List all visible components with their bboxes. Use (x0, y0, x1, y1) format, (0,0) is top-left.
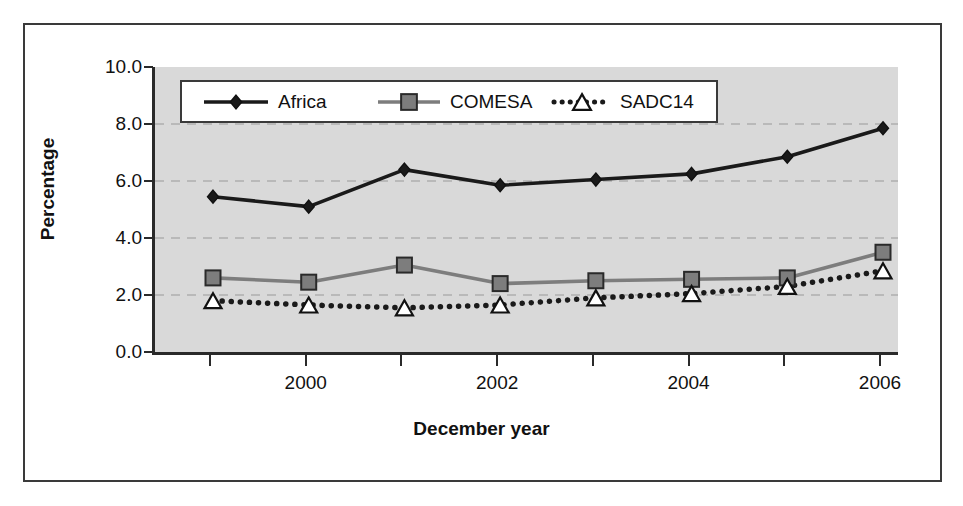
legend-label-comesa: COMESA (450, 91, 532, 113)
x-tick-mark (783, 353, 785, 366)
data-point-square (876, 245, 891, 260)
legend-label-africa: Africa (278, 91, 327, 113)
data-point-diamond (590, 173, 601, 186)
y-tick-label: 8.0 (84, 114, 142, 133)
y-tick-mark (144, 237, 153, 239)
y-tick-mark (144, 351, 153, 353)
y-tick-mark (144, 180, 153, 182)
x-tick-mark (879, 353, 881, 366)
x-tick-mark (400, 353, 402, 366)
x-tick-label: 2004 (644, 372, 734, 394)
x-tick-mark (592, 353, 594, 366)
x-tick-label: 2000 (261, 372, 351, 394)
data-point-diamond (208, 190, 219, 203)
x-tick-mark (209, 353, 211, 366)
y-tick-mark (144, 294, 153, 296)
x-tick-label: 2002 (452, 372, 542, 394)
x-axis-title: December year (0, 418, 963, 440)
data-point-square (301, 275, 316, 290)
data-point-diamond (782, 150, 793, 163)
y-tick-label: 4.0 (84, 228, 142, 247)
data-point-diamond (399, 163, 410, 176)
legend-marker-square (401, 94, 417, 110)
series-africa (213, 128, 883, 206)
x-tick-label: 2006 (835, 372, 925, 394)
y-tick-label: 6.0 (84, 171, 142, 190)
y-tick-label: 10.0 (84, 57, 142, 76)
legend-marker-diamond (230, 95, 242, 109)
x-tick-mark (496, 353, 498, 366)
data-point-square (588, 273, 603, 288)
data-point-square (206, 270, 221, 285)
y-axis-title: Percentage (37, 79, 59, 299)
y-tick-label: 2.0 (84, 285, 142, 304)
chart-legend: AfricaCOMESASADC14 (180, 80, 718, 123)
data-point-diamond (686, 167, 697, 180)
data-point-diamond (303, 200, 314, 213)
data-point-square (397, 258, 412, 273)
y-tick-label: 0.0 (84, 342, 142, 361)
y-tick-mark (144, 66, 153, 68)
data-point-square (493, 276, 508, 291)
x-tick-mark (305, 353, 307, 366)
legend-label-sadc14: SADC14 (620, 91, 694, 113)
y-tick-mark (144, 123, 153, 125)
chart-figure: 10.08.06.04.02.00.0 Percentage 200020022… (0, 0, 963, 506)
x-tick-mark (688, 353, 690, 366)
